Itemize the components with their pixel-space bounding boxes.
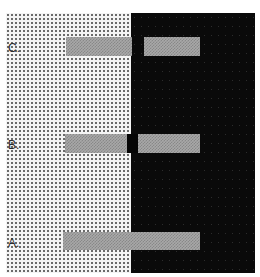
bar-b-connector-block [127, 134, 138, 153]
bar-b-left [65, 134, 127, 153]
label-b: B. [8, 139, 19, 151]
label-c: C. [8, 42, 20, 54]
label-a: A. [8, 237, 19, 249]
bar-c-right [144, 37, 200, 56]
bar-c-left [66, 37, 132, 56]
bar-b-right [138, 134, 200, 153]
bar-a-continuous [63, 232, 200, 250]
illusion-figure: C. B. A. [6, 13, 255, 273]
